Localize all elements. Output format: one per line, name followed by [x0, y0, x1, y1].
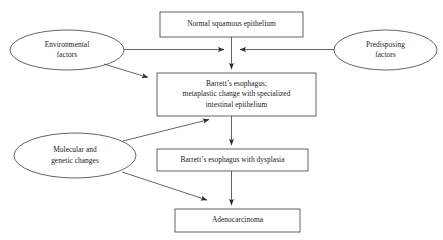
edge-molecular-to-adenocarcinoma [122, 172, 207, 200]
node-barretts-esophagus-metaplasia [157, 73, 316, 116]
node-adenocarcinoma [175, 209, 300, 232]
edge-molecular-to-metaplasia [123, 120, 209, 142]
edge-environmental-to-metaplasia [104, 64, 148, 78]
node-normal-squamous-epithelium [160, 12, 303, 37]
diagram-graphics [0, 0, 443, 240]
node-environmental-factors [10, 30, 124, 70]
node-molecular-genetic-changes [14, 133, 136, 178]
node-predisposing-factors [334, 30, 437, 70]
node-barretts-esophagus-dysplasia [157, 149, 308, 171]
diagram-canvas: Normal squamous epithelium Environmental… [0, 0, 443, 240]
